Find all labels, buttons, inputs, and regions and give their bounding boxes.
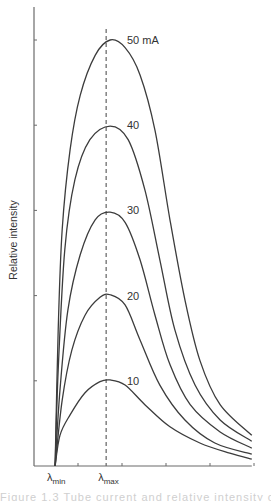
curve-40-ma bbox=[55, 126, 252, 466]
curve-label: 40 bbox=[127, 119, 139, 131]
curve-30-ma bbox=[55, 212, 252, 466]
x-tick-label-lambda-min: λmin bbox=[47, 471, 65, 486]
curve-label: 20 bbox=[127, 290, 139, 302]
y-axis-label: Relative intensity bbox=[7, 200, 19, 280]
x-tick-labels: λminλmax bbox=[47, 471, 119, 486]
curve-labels: 50 mA40302010 bbox=[127, 34, 159, 387]
axes bbox=[34, 7, 254, 466]
curve-label: 50 mA bbox=[127, 34, 159, 46]
x-tick-label-lambda-max: λmax bbox=[98, 471, 119, 486]
subscript: min bbox=[53, 477, 66, 486]
curve-label: 10 bbox=[127, 375, 139, 387]
curve-20-ma bbox=[55, 294, 252, 466]
curve-label: 30 bbox=[127, 204, 139, 216]
figure-caption: Figure 1.3 Tube current and relative int… bbox=[0, 491, 271, 501]
subscript: max bbox=[104, 477, 119, 486]
curve-50-ma bbox=[55, 40, 252, 466]
curves bbox=[55, 40, 252, 466]
